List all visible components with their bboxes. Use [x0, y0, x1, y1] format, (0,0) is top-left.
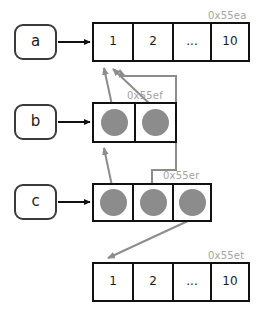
variable-box-b[interactable]: b: [14, 104, 57, 140]
address-label-array-bottom: 0x55et: [208, 250, 244, 261]
pointer-blob-icon: [101, 109, 128, 136]
variable-box-c[interactable]: c: [14, 184, 57, 220]
array-b-cell-1[interactable]: [136, 104, 175, 141]
address-label-array-top: 0x55ea: [208, 10, 247, 21]
array-top-cell-0-value: 1: [109, 34, 117, 48]
pointer-blob-icon: [179, 189, 206, 216]
variable-label-a: a: [31, 34, 40, 49]
array-bottom-cell-3[interactable]: 10: [212, 264, 248, 300]
array-bottom-cell-2[interactable]: ...: [174, 264, 212, 300]
array-bottom[interactable]: 1 2 ... 10: [92, 262, 250, 302]
array-bottom-cell-0-value: 1: [109, 274, 117, 288]
arrow-b0-to-array-top: [104, 68, 112, 105]
array-c-cell-0[interactable]: [94, 185, 134, 220]
array-top-cell-3[interactable]: 10: [212, 24, 248, 60]
pointer-blob-icon: [100, 189, 127, 216]
arrow-c2-to-array-bottom: [108, 220, 190, 258]
array-top[interactable]: 1 2 ... 10: [92, 22, 250, 62]
array-bottom-cell-1[interactable]: 2: [134, 264, 174, 300]
pointer-blob-icon: [140, 189, 167, 216]
array-c-cell-2[interactable]: [174, 185, 210, 220]
array-bottom-cell-0[interactable]: 1: [94, 264, 134, 300]
address-label-array-b: 0x55ef: [127, 90, 163, 101]
array-top-cell-1[interactable]: 2: [134, 24, 174, 60]
variable-box-a[interactable]: a: [14, 24, 57, 60]
array-bottom-cell-1-value: 2: [149, 274, 157, 288]
array-bottom-cell-3-value: 10: [222, 274, 237, 288]
array-c[interactable]: [92, 183, 212, 222]
array-top-cell-3-value: 10: [222, 34, 237, 48]
array-top-cell-0[interactable]: 1: [94, 24, 134, 60]
array-c-cell-1[interactable]: [134, 185, 174, 220]
address-label-array-c: 0x55er: [163, 170, 199, 181]
array-top-cell-1-value: 2: [149, 34, 157, 48]
array-b-cell-0[interactable]: [94, 104, 136, 141]
arrow-c0-to-array-b: [104, 148, 112, 186]
variable-label-c: c: [31, 194, 39, 209]
array-top-cell-2[interactable]: ...: [174, 24, 212, 60]
array-bottom-cell-2-value: ...: [186, 274, 197, 288]
variable-label-b: b: [31, 114, 41, 129]
pointer-blob-icon: [142, 109, 169, 136]
array-top-cell-2-value: ...: [186, 34, 197, 48]
array-b[interactable]: [92, 102, 177, 143]
diagram-canvas: a b c 0x55ea 0x55ef 0x55er 0x55et 1 2 ..…: [0, 0, 263, 316]
